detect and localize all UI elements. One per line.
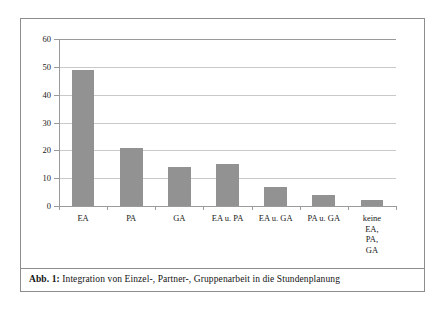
x-axis-tick [107, 206, 108, 210]
bar [361, 200, 384, 206]
y-axis-tick-label: 10 [43, 173, 52, 183]
gridline [59, 39, 396, 40]
y-axis-tick [54, 178, 59, 179]
figure-caption-label: Abb. 1: [29, 274, 60, 284]
y-axis-tick [54, 150, 59, 151]
x-axis-tick-label: keine EA, PA, GA [360, 213, 384, 256]
gridline [59, 95, 396, 96]
bar [312, 195, 335, 206]
bar [168, 167, 191, 206]
x-axis-tick [203, 206, 204, 210]
y-axis-tick [54, 67, 59, 68]
x-axis-tick [155, 206, 156, 210]
figure-caption-body: Integration von Einzel-, Partner-, Grupp… [60, 274, 340, 284]
chart-area: 0102030405060 EAPAGAEA u. PAEA u. GAPA u… [21, 19, 424, 268]
y-axis-tick-label: 20 [43, 145, 52, 155]
bar [72, 70, 95, 206]
y-axis-line [59, 39, 60, 206]
x-axis-tick [396, 206, 397, 210]
x-axis-tick-label: EA u. PA [212, 213, 244, 224]
plot-area: 0102030405060 EAPAGAEA u. PAEA u. GAPA u… [59, 39, 396, 206]
y-axis-tick-label: 60 [43, 34, 52, 44]
bar [120, 148, 143, 206]
gridline [59, 67, 396, 68]
x-axis-tick-label: EA u. GA [259, 213, 293, 224]
y-axis-tick [54, 123, 59, 124]
plot-wrapper: 0102030405060 EAPAGAEA u. PAEA u. GAPA u… [21, 19, 424, 268]
x-axis-tick [252, 206, 253, 210]
x-axis-tick-label: PA u. GA [308, 213, 341, 224]
y-axis-tick [54, 95, 59, 96]
y-axis-tick-label: 50 [43, 62, 52, 72]
y-axis-tick-label: 0 [47, 201, 51, 211]
y-axis-tick-label: 40 [43, 90, 52, 100]
bar [216, 164, 239, 206]
x-axis-tick [348, 206, 349, 210]
x-axis-tick [300, 206, 301, 210]
bar [264, 187, 287, 206]
x-axis-tick [59, 206, 60, 210]
gridline [59, 150, 396, 151]
figure-frame: 0102030405060 EAPAGAEA u. PAEA u. GAPA u… [20, 18, 425, 292]
figure-caption: Abb. 1: Integration von Einzel-, Partner… [21, 274, 340, 285]
y-axis-tick [54, 39, 59, 40]
gridline [59, 206, 396, 207]
x-axis-tick-label: EA [77, 213, 88, 224]
x-axis-tick-label: GA [173, 213, 185, 224]
caption-bar: Abb. 1: Integration von Einzel-, Partner… [21, 269, 424, 291]
gridline [59, 123, 396, 124]
y-axis-tick-label: 30 [43, 118, 52, 128]
x-axis-tick-label: PA [126, 213, 136, 224]
